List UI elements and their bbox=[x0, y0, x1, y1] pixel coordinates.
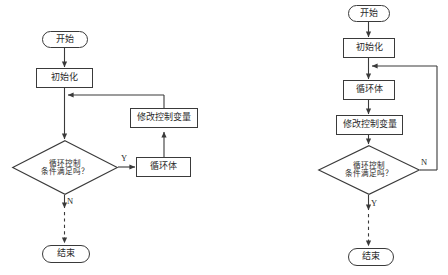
right-node-update-control-variable[interactable]: 修改控制变量 bbox=[336, 115, 403, 135]
right-node-init[interactable]: 初始化 bbox=[343, 38, 395, 58]
right-node-start[interactable]: 开始 bbox=[348, 5, 390, 22]
left-node-init[interactable]: 初始化 bbox=[36, 68, 93, 88]
right-branch-label-yes: Y bbox=[371, 199, 377, 208]
right-node-loop-body[interactable]: 循环体 bbox=[343, 80, 395, 100]
left-decision-label: 循环控制 条件满足吗？ bbox=[41, 160, 89, 176]
left-node-loop-body[interactable]: 循环体 bbox=[136, 157, 191, 177]
left-branch-label-no: N bbox=[67, 197, 73, 206]
right-flowchart: 开始 初始化 循环体 修改控制变量 循环控制 条件满足吗？ 结束 N Y bbox=[224, 0, 448, 275]
flowchart-figure: 开始 初始化 修改控制变量 循环控制 条件满足吗？ 循环体 结束 Y N bbox=[0, 0, 448, 275]
left-node-end[interactable]: 结束 bbox=[42, 245, 90, 263]
left-flowchart-edges bbox=[0, 0, 224, 275]
left-node-decision[interactable]: 循环控制 条件满足吗？ bbox=[12, 140, 118, 195]
right-flowchart-edges bbox=[224, 0, 448, 275]
right-decision-label: 循环控制 条件满足吗？ bbox=[345, 162, 393, 178]
right-node-end[interactable]: 结束 bbox=[348, 248, 394, 266]
left-node-start[interactable]: 开始 bbox=[42, 31, 88, 48]
left-node-update-control-variable[interactable]: 修改控制变量 bbox=[130, 108, 198, 128]
right-node-decision[interactable]: 循环控制 条件满足吗？ bbox=[318, 145, 420, 195]
right-branch-label-no: N bbox=[421, 158, 427, 167]
left-branch-label-yes: Y bbox=[121, 154, 127, 163]
left-flowchart: 开始 初始化 修改控制变量 循环控制 条件满足吗？ 循环体 结束 Y N bbox=[0, 0, 224, 275]
